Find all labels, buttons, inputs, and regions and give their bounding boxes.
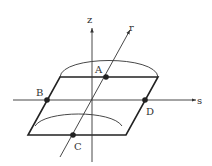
label-a: A [94, 64, 103, 75]
r-label: r [129, 22, 134, 33]
point-b [44, 97, 50, 103]
parallelogram [28, 77, 158, 135]
point-a [103, 74, 109, 80]
point-c [70, 132, 76, 138]
label-c: C [74, 141, 82, 152]
diagram: z r s A B D C [0, 0, 212, 166]
z-label: z [87, 14, 92, 25]
r-axis [60, 30, 130, 157]
label-d: D [146, 106, 154, 117]
s-label: s [197, 95, 202, 106]
label-b: B [36, 87, 43, 98]
point-d [142, 97, 148, 103]
